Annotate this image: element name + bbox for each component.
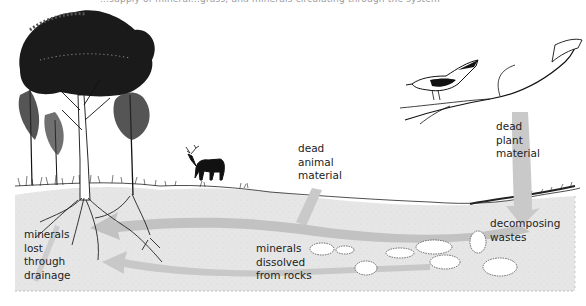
- deer-silhouette: [186, 145, 224, 180]
- label-line: material: [496, 147, 540, 161]
- label-line: through: [24, 255, 71, 269]
- label-line: dead: [496, 120, 540, 134]
- label-line: dissolved: [256, 256, 312, 270]
- label-line: material: [298, 169, 342, 183]
- bird-on-branch: [400, 39, 582, 124]
- label-line: decomposing: [490, 217, 560, 231]
- label-minerals-lost-through-drainage: minerals lost through drainage: [24, 228, 71, 282]
- label-line: wastes: [490, 231, 560, 245]
- label-decomposing-wastes: decomposing wastes: [490, 217, 560, 244]
- label-line: from rocks: [256, 269, 312, 283]
- mineral-cycle-diagram: ...supply of mineral...grass, and minera…: [0, 0, 586, 306]
- label-line: dead: [298, 142, 342, 156]
- tree-canopy: [19, 10, 154, 96]
- label-line: drainage: [24, 269, 71, 283]
- label-dead-plant-material: dead plant material: [496, 120, 540, 161]
- label-line: animal: [298, 156, 342, 170]
- label-line: minerals: [256, 242, 312, 256]
- label-minerals-dissolved-from-rocks: minerals dissolved from rocks: [256, 242, 312, 283]
- label-line: plant: [496, 134, 540, 148]
- label-line: minerals: [24, 228, 71, 242]
- label-dead-animal-material: dead animal material: [298, 142, 342, 183]
- label-line: lost: [24, 242, 71, 256]
